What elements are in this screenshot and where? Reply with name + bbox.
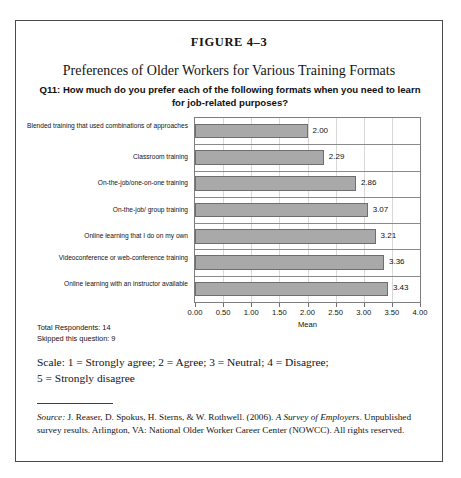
figure-number: FIGURE 4–3 — [16, 35, 442, 50]
category-separator — [195, 223, 420, 224]
source-label: Source: — [37, 412, 65, 422]
scale-line-2: 5 = Strongly disagree — [37, 370, 427, 386]
category-label: Classroom training — [20, 152, 188, 161]
figure-frame: FIGURE 4–3 Preferences of Older Workers … — [15, 20, 443, 462]
bar-value-label: 2.86 — [361, 178, 377, 187]
bar-value-label: 3.21 — [381, 231, 397, 240]
bar — [195, 203, 368, 217]
category-label: Online learning with an instructor avail… — [20, 279, 188, 288]
source-citation-lead: J. Reaser, D. Spokus, H. Sterns, & W. Ro… — [65, 412, 275, 422]
bar — [195, 124, 308, 138]
bar — [195, 176, 356, 190]
category-label: Online learning that I do on my own — [20, 231, 188, 240]
source-note: Source: J. Reaser, D. Spokus, H. Sterns,… — [37, 411, 429, 437]
x-axis-tick — [251, 303, 252, 307]
category-label: On-the-job/ group training — [20, 205, 188, 214]
source-work-title: A Survey of Employers — [276, 412, 360, 422]
x-axis-tick — [195, 303, 196, 307]
category-label: On-the-job/one-on-one training — [20, 178, 188, 187]
x-axis-tick — [392, 303, 393, 307]
x-axis-tick — [336, 303, 337, 307]
figure-title: Preferences of Older Workers for Various… — [16, 63, 442, 79]
x-axis-tick — [223, 303, 224, 307]
x-axis-tick-label: 4.00 — [400, 308, 440, 317]
bar — [195, 150, 324, 164]
x-axis-tick — [308, 303, 309, 307]
category-separator — [195, 249, 420, 250]
figure-subtitle: Q11: How much do you prefer each of the … — [36, 83, 424, 109]
plot-area: 2.002.292.863.073.213.363.43 — [194, 117, 421, 303]
respondent-notes: Total Respondents: 14 Skipped this quest… — [37, 323, 115, 344]
category-separator — [195, 197, 420, 198]
source-divider — [37, 403, 113, 404]
category-separator — [195, 144, 420, 145]
bar-value-label: 2.29 — [329, 152, 345, 161]
scale-line-1: Scale: 1 = Strongly agree; 2 = Agree; 3 … — [37, 354, 427, 370]
x-axis-tick — [364, 303, 365, 307]
bar-chart: 2.002.292.863.073.213.363.43 Mean Blende… — [20, 113, 440, 323]
total-respondents: Total Respondents: 14 — [37, 323, 115, 334]
bar — [195, 282, 388, 296]
x-axis-tick — [279, 303, 280, 307]
category-label: Videoconference or web-conference traini… — [20, 253, 188, 262]
bar-value-label: 3.43 — [393, 283, 409, 292]
x-axis-title: Mean — [194, 320, 421, 329]
bar-value-label: 3.36 — [389, 257, 405, 266]
skipped-question: Skipped this question: 9 — [37, 334, 115, 345]
gridline — [392, 118, 393, 302]
bar — [195, 229, 376, 243]
category-separator — [195, 171, 420, 172]
category-separator — [195, 276, 420, 277]
bar-value-label: 2.00 — [313, 126, 329, 135]
bar-value-label: 3.07 — [373, 205, 389, 214]
x-axis-tick — [420, 303, 421, 307]
bar — [195, 255, 384, 269]
scale-legend: Scale: 1 = Strongly agree; 2 = Agree; 3 … — [37, 354, 427, 386]
category-label: Blended training that used combinations … — [20, 121, 188, 130]
